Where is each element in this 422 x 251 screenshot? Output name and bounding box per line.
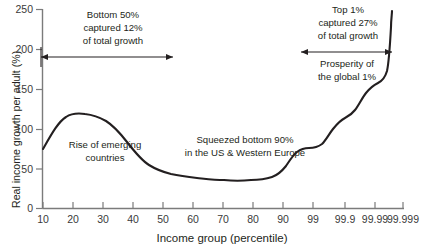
x-tick-label-90: 90: [277, 213, 289, 225]
prosperity-line1: Prosperity of: [320, 58, 374, 69]
y-tick-label-150: 150: [15, 83, 33, 95]
top-1-arrow: [301, 49, 392, 55]
x-tick-label-70: 70: [217, 213, 229, 225]
x-tick-label-99-99: 99.99: [362, 213, 388, 225]
bottom-50-line3: of total growth: [83, 35, 143, 46]
y-tick-label-100: 100: [15, 123, 33, 135]
squeezed-annotation: Squeezed bottom 90% in the US & Western …: [185, 134, 305, 158]
top-1-line3: of total growth: [318, 30, 378, 41]
top-1-line2: captured 27%: [318, 17, 378, 28]
bottom-50-line1: Bottom 50%: [87, 9, 140, 20]
x-tick-label-60: 60: [187, 213, 199, 225]
y-axis: 250 200 150 100 50 0: [15, 3, 42, 214]
bottom-50-arrow: [41, 47, 173, 67]
y-tick-label-0: 0: [27, 202, 33, 214]
rise-emerging-annotation: Rise of emerging countries: [69, 139, 142, 163]
chart-figure: Real income growth per adult (%) 250 200…: [0, 0, 422, 251]
top-1-arrow-head-left: [301, 49, 308, 55]
x-tick-label-40: 40: [127, 213, 139, 225]
x-tick-label-99: 99: [307, 213, 319, 225]
squeezed-line2: in the US & Western Europe: [185, 147, 305, 158]
bottom-50-arrow-head-right: [166, 54, 173, 60]
prosperity-annotation: Prosperity of the global 1%: [318, 58, 377, 82]
top-1-line1: Top 1%: [332, 4, 364, 15]
x-tick-label-30: 30: [97, 213, 109, 225]
squeezed-line1: Squeezed bottom 90%: [196, 134, 294, 145]
x-tick-label-99-999: 99.999: [387, 213, 419, 225]
top-1-annotation: Top 1% captured 27% of total growth: [318, 4, 378, 41]
x-axis-title: Income group (percentile): [156, 232, 287, 244]
prosperity-line2: the global 1%: [318, 71, 377, 82]
x-tick-label-80: 80: [247, 213, 259, 225]
bottom-50-line2: captured 12%: [83, 22, 143, 33]
rise-emerging-line1: Rise of emerging: [69, 139, 142, 150]
x-tick-label-10: 10: [37, 213, 49, 225]
rise-emerging-line2: countries: [86, 152, 125, 163]
x-axis: 10 20 30 40 50 60 70 80 90 99 99.9 99.99…: [37, 202, 419, 244]
bottom-50-annotation: Bottom 50% captured 12% of total growth: [83, 9, 143, 46]
x-tick-label-99-9: 99.9: [335, 213, 356, 225]
x-tick-label-20: 20: [67, 213, 79, 225]
elephant-curve-chart: 250 200 150 100 50 0 10 20 30: [0, 0, 422, 251]
y-tick-label-50: 50: [21, 163, 33, 175]
y-tick-label-250: 250: [15, 3, 33, 15]
x-tick-label-50: 50: [157, 213, 169, 225]
y-tick-label-200: 200: [15, 43, 33, 55]
